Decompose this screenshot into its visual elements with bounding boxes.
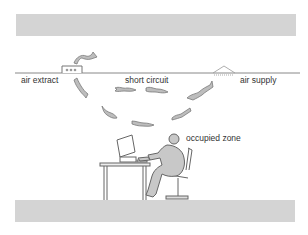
air-supply-label: air supply xyxy=(240,76,276,85)
airflow-arrows xyxy=(74,52,213,126)
air-extract-label: air extract xyxy=(21,76,58,85)
air-extract-grille-icon xyxy=(62,66,82,73)
desk-icon xyxy=(100,163,150,200)
short-circuit-label: short circuit xyxy=(125,76,168,85)
airflow-diagram xyxy=(0,0,308,235)
occupied-zone-label: occupied zone xyxy=(186,134,241,143)
air-supply-diffuser-icon xyxy=(213,66,235,75)
